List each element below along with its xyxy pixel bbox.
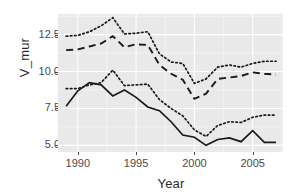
x-tick-mark [253,152,254,155]
x-tick-label: 2000 [172,157,216,169]
plot-area [58,14,283,152]
series-estimate [66,83,276,146]
x-tick-label: 2005 [231,157,275,169]
series-lower-band [66,70,276,136]
y-tick-label: 5.0 [20,138,60,150]
y-tick-label: 10.0 [20,65,60,77]
y-tick-label: 7.5 [20,101,60,113]
x-tick-mark [78,152,79,155]
y-tick-label: 12.5 [20,28,60,40]
plot-panel [58,14,283,152]
series-upper-estimate [66,36,276,99]
x-tick-label: 1995 [114,157,158,169]
chart-figure: V_mur Year 5.07.510.012.5 19901995200020… [0,0,296,196]
x-tick-label: 1990 [56,157,100,169]
x-tick-mark [194,152,195,155]
x-tick-mark [136,152,137,155]
x-axis-title: Year [58,176,284,191]
